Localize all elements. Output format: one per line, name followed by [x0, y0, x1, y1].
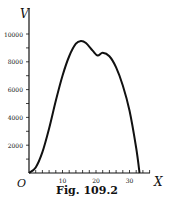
x-tick-label: 30 — [126, 177, 134, 184]
y-tick-label: 10000 — [4, 31, 23, 38]
y-tick-label: 6000 — [8, 86, 23, 93]
y-axis-label: V — [20, 7, 30, 21]
y-tick-label: 4000 — [8, 114, 23, 121]
x-tick-label: 10 — [59, 177, 67, 184]
axes — [29, 8, 150, 173]
figure-caption: Fig. 109.2 — [0, 184, 174, 197]
y-tick-label: 8000 — [8, 58, 23, 65]
y-tick-label: 2000 — [8, 142, 23, 149]
chart: 200040006000800010000102030VXO — [0, 0, 174, 205]
x-tick-label: 20 — [92, 177, 100, 184]
ticks — [26, 34, 150, 173]
data-curve — [29, 41, 140, 173]
